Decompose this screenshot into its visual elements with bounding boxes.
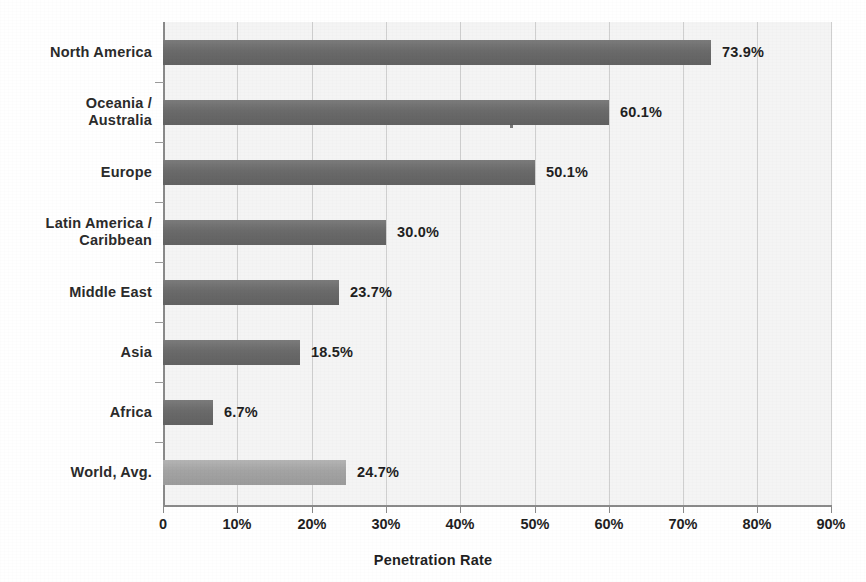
bar-africa[interactable] bbox=[163, 400, 213, 425]
x-axis-tick-label-70: 70% bbox=[668, 516, 697, 532]
x-axis-tick-label-30: 30% bbox=[371, 516, 400, 532]
category-label-asia: Asia bbox=[0, 344, 152, 361]
category-label-europe: Europe bbox=[0, 164, 152, 181]
bar-oceania-australia[interactable] bbox=[163, 100, 609, 125]
y-axis-line bbox=[163, 22, 165, 505]
category-label-line1: Oceania / bbox=[0, 95, 152, 112]
x-axis-tick bbox=[535, 505, 536, 513]
category-label-north-america: North America bbox=[0, 44, 152, 61]
bar-asia[interactable] bbox=[163, 340, 300, 365]
category-label-line1: North America bbox=[50, 44, 152, 60]
gridline-40 bbox=[460, 22, 461, 505]
x-axis-tick-label-60: 60% bbox=[594, 516, 623, 532]
x-axis-tick bbox=[163, 505, 164, 513]
gridline-20 bbox=[312, 22, 313, 505]
value-label-oceania-australia: 60.1% bbox=[620, 104, 662, 120]
category-label-line2: Caribbean bbox=[0, 232, 152, 249]
category-label-line1: Europe bbox=[101, 164, 152, 180]
x-axis-tick-label-0: 0 bbox=[159, 516, 167, 532]
value-label-middle-east: 23.7% bbox=[350, 284, 392, 300]
x-axis-tick-label-50: 50% bbox=[520, 516, 549, 532]
y-axis-tick bbox=[155, 142, 164, 143]
gridline-70 bbox=[683, 22, 684, 505]
category-label-line1: World, Avg. bbox=[71, 464, 152, 480]
plot-area bbox=[163, 22, 832, 505]
category-label-latin-america-caribbean: Latin America / Caribbean bbox=[0, 215, 152, 249]
category-label-line1: Africa bbox=[110, 404, 152, 420]
bar-europe[interactable] bbox=[163, 160, 535, 185]
x-axis-tick bbox=[757, 505, 758, 513]
cropped-title-sliver bbox=[0, 0, 866, 8]
penetration-rate-bar-chart: North America Oceania / Australia Europe… bbox=[0, 0, 866, 582]
x-axis-tick bbox=[460, 505, 461, 513]
gridline-80 bbox=[757, 22, 758, 505]
x-axis-tick bbox=[386, 505, 387, 513]
y-axis-tick bbox=[155, 202, 164, 203]
category-label-world-avg: World, Avg. bbox=[0, 464, 152, 481]
y-axis-tick bbox=[155, 322, 164, 323]
x-axis-tick bbox=[831, 505, 832, 513]
gridline-10 bbox=[237, 22, 238, 505]
gridline-60 bbox=[609, 22, 610, 505]
category-label-africa: Africa bbox=[0, 404, 152, 421]
value-label-latin-america-caribbean: 30.0% bbox=[397, 224, 439, 240]
bar-latin-america-caribbean[interactable] bbox=[163, 220, 386, 245]
value-label-africa: 6.7% bbox=[224, 404, 258, 420]
x-axis-line bbox=[163, 505, 832, 507]
category-label-line2: Australia bbox=[0, 112, 152, 129]
x-axis-tick bbox=[683, 505, 684, 513]
gridline-50 bbox=[535, 22, 536, 505]
x-axis-tick-label-90: 90% bbox=[816, 516, 845, 532]
bar-world-avg[interactable] bbox=[163, 460, 346, 485]
value-label-asia: 18.5% bbox=[311, 344, 353, 360]
y-axis-tick bbox=[155, 82, 164, 83]
category-label-line1: Middle East bbox=[69, 284, 152, 300]
x-axis-tick-label-40: 40% bbox=[445, 516, 474, 532]
bar-middle-east[interactable] bbox=[163, 280, 339, 305]
gridline-90 bbox=[831, 22, 832, 505]
bar-north-america[interactable] bbox=[163, 40, 711, 65]
category-label-line1: Asia bbox=[121, 344, 152, 360]
y-axis-tick bbox=[155, 262, 164, 263]
value-label-north-america: 73.9% bbox=[722, 44, 764, 60]
value-label-europe: 50.1% bbox=[546, 164, 588, 180]
x-axis-tick bbox=[237, 505, 238, 513]
y-axis-tick bbox=[155, 442, 164, 443]
category-label-line1: Latin America / bbox=[0, 215, 152, 232]
x-axis-tick-label-10: 10% bbox=[222, 516, 251, 532]
x-axis-tick bbox=[312, 505, 313, 513]
x-axis-tick bbox=[609, 505, 610, 513]
scan-speck bbox=[510, 124, 513, 128]
gridline-30 bbox=[386, 22, 387, 505]
x-axis-title: Penetration Rate bbox=[0, 552, 866, 568]
category-label-middle-east: Middle East bbox=[0, 284, 152, 301]
x-axis-tick-label-80: 80% bbox=[742, 516, 771, 532]
x-axis-tick-label-20: 20% bbox=[297, 516, 326, 532]
category-label-oceania-australia: Oceania / Australia bbox=[0, 95, 152, 129]
y-axis-tick bbox=[155, 382, 164, 383]
value-label-world-avg: 24.7% bbox=[357, 464, 399, 480]
